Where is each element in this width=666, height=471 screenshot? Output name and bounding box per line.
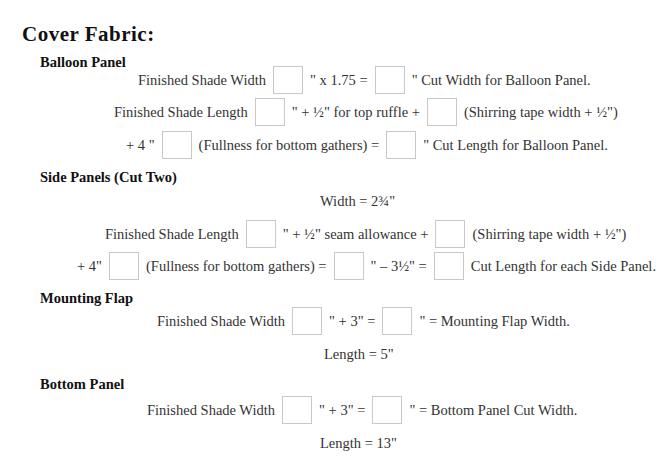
side-panels-heading: Side Panels (Cut Two) xyxy=(40,169,177,186)
bottom-width-row: Finished Shade Width " + 3" = " = Bottom… xyxy=(147,395,577,425)
side-fullness-input[interactable] xyxy=(109,252,139,280)
balloon-length-row: Finished Shade Length " + ½" for top ruf… xyxy=(114,97,618,127)
side-fullness-row: + 4" (Fullness for bottom gathers) = " –… xyxy=(77,251,656,281)
label: (Shirring tape width + ½") xyxy=(464,104,618,121)
mounting-width-row: Finished Shade Width " + 3" = " = Mounti… xyxy=(157,306,570,336)
label: " x 1.75 = xyxy=(310,72,368,89)
label: Finished Shade Length xyxy=(105,226,239,243)
bottom-cut-width-input[interactable] xyxy=(372,396,402,424)
mounting-shade-width-input[interactable] xyxy=(292,307,322,335)
label: " + ½" seam allowance + xyxy=(283,226,429,243)
balloon-cut-length-input[interactable] xyxy=(386,131,416,159)
label: " + 3" = xyxy=(319,402,365,419)
label: " – 3½" = xyxy=(371,258,427,275)
bottom-length-text: Length = 13" xyxy=(320,428,397,458)
label: " Cut Length for Balloon Panel. xyxy=(423,137,608,154)
page-title: Cover Fabric: xyxy=(22,22,155,47)
label: (Shirring tape width + ½") xyxy=(472,226,626,243)
balloon-panel-heading: Balloon Panel xyxy=(40,54,126,71)
side-shirring-input[interactable] xyxy=(435,220,465,248)
bottom-panel-heading: Bottom Panel xyxy=(40,376,124,393)
bottom-shade-width-input[interactable] xyxy=(282,396,312,424)
balloon-shade-width-input[interactable] xyxy=(273,66,303,94)
label: Finished Shade Width xyxy=(138,72,266,89)
label: " + ½" for top ruffle + xyxy=(292,104,420,121)
side-cut-length-input[interactable] xyxy=(434,252,464,280)
label: " = Bottom Panel Cut Width. xyxy=(409,402,577,419)
side-length-row: Finished Shade Length " + ½" seam allowa… xyxy=(105,219,626,249)
label: (Fullness for bottom gathers) = xyxy=(199,137,380,154)
side-width-text: Width = 2¾" xyxy=(320,186,395,216)
label: " = Mounting Flap Width. xyxy=(419,313,570,330)
balloon-shirring-input[interactable] xyxy=(427,98,457,126)
label: + 4" xyxy=(77,258,102,275)
balloon-fullness-input[interactable] xyxy=(162,131,192,159)
balloon-fullness-row: + 4 " (Fullness for bottom gathers) = " … xyxy=(126,130,608,160)
balloon-shade-length-input[interactable] xyxy=(255,98,285,126)
label: (Fullness for bottom gathers) = xyxy=(146,258,327,275)
mounting-flap-width-input[interactable] xyxy=(382,307,412,335)
mounting-length-text: Length = 5" xyxy=(324,339,394,369)
label: Finished Shade Length xyxy=(114,104,248,121)
balloon-cut-width-input[interactable] xyxy=(375,66,405,94)
label: + 4 " xyxy=(126,137,155,154)
side-shade-length-input[interactable] xyxy=(246,220,276,248)
label: " Cut Width for Balloon Panel. xyxy=(412,72,591,89)
label: Finished Shade Width xyxy=(157,313,285,330)
label: " + 3" = xyxy=(329,313,375,330)
side-subtotal-input[interactable] xyxy=(334,252,364,280)
label: Finished Shade Width xyxy=(147,402,275,419)
label: Cut Length for each Side Panel. xyxy=(471,258,656,275)
mounting-flap-heading: Mounting Flap xyxy=(40,290,133,307)
balloon-width-row: Finished Shade Width " x 1.75 = " Cut Wi… xyxy=(138,65,591,95)
